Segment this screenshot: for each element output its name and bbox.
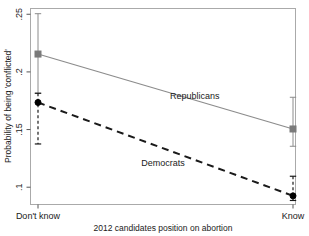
x-tick-label: Know bbox=[282, 211, 305, 221]
x-axis-tick-labels: Don't knowKnow bbox=[16, 211, 305, 221]
series-annotation-label: Republicans bbox=[170, 91, 220, 101]
y-tick-label: .2 bbox=[14, 68, 24, 76]
data-point-marker bbox=[290, 126, 296, 132]
y-axis-ticks bbox=[27, 14, 31, 187]
x-axis-ticks bbox=[38, 205, 293, 209]
y-axis-title: Probability of being 'conflicted' bbox=[3, 49, 13, 163]
chart-figure: .25.2.15.1 Don't knowKnow RepublicansDem… bbox=[0, 0, 309, 236]
series-lines-group bbox=[38, 54, 293, 196]
y-axis-tick-labels: .25.2.15.1 bbox=[14, 8, 24, 191]
series-annotation-label: Democrats bbox=[141, 158, 185, 168]
series-annotations-group: RepublicansDemocrats bbox=[141, 91, 220, 168]
x-axis-title: 2012 candidates position on abortion bbox=[94, 223, 233, 233]
error-bars-group bbox=[35, 14, 296, 201]
y-tick-label: .1 bbox=[14, 183, 24, 191]
series-markers-group bbox=[35, 51, 296, 199]
abortion-position-conflicted-line-chart: .25.2.15.1 Don't knowKnow RepublicansDem… bbox=[0, 0, 309, 236]
plot-frame bbox=[31, 9, 296, 205]
data-point-marker bbox=[35, 99, 41, 105]
y-tick-label: .15 bbox=[14, 123, 24, 136]
data-point-marker bbox=[290, 193, 296, 199]
series-line-democrats bbox=[38, 102, 293, 195]
series-line-republicans bbox=[38, 54, 293, 129]
data-point-marker bbox=[35, 51, 41, 57]
x-tick-label: Don't know bbox=[16, 211, 61, 221]
y-tick-label: .25 bbox=[14, 8, 24, 21]
